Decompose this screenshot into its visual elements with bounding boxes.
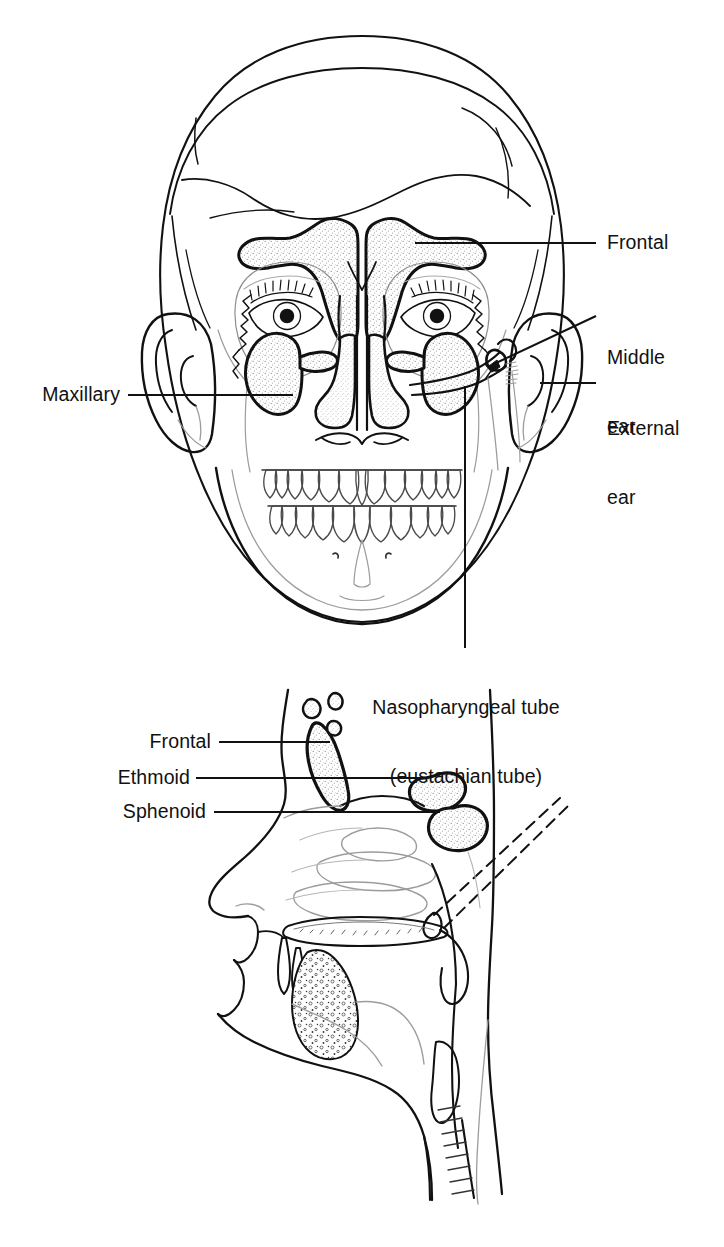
nasal-notch-right [374, 438, 402, 444]
hair-strand-3 [462, 108, 512, 166]
nasal-notch-left [322, 438, 350, 444]
label-ethmoid: Ethmoid [0, 766, 190, 789]
nose-underside [234, 916, 258, 962]
suture-right [473, 295, 485, 350]
cranium-outline [160, 36, 564, 622]
label-nasopharyngeal-tube: Nasopharyngeal tube (eustachian tube) [325, 650, 607, 834]
label-external-ear-line2: ear [607, 486, 679, 509]
mandibular-teeth [268, 506, 456, 543]
suture-left-lower [233, 350, 239, 378]
soft-palate [440, 930, 468, 1004]
nostril-crease [236, 904, 264, 910]
label-frontal-top: Frontal [607, 231, 668, 254]
nasal-cavity-left [315, 335, 355, 428]
neck-posterior-soft [477, 1020, 489, 1204]
chin-crease [340, 596, 384, 601]
suture-left [239, 295, 251, 350]
eye-right [401, 276, 480, 337]
tongue [292, 950, 358, 1059]
external-ear-left [142, 314, 215, 453]
ramus-right [488, 378, 498, 470]
label-external-ear-line1: External [607, 417, 679, 440]
label-maxillary: Maxillary [0, 383, 120, 406]
maxillary-sinus-left [246, 333, 303, 414]
nasal-airway-2 [292, 860, 366, 872]
maxillary-sinus-left-horn [300, 352, 337, 371]
label-nasopharyngeal-line1: Nasopharyngeal tube [325, 696, 607, 719]
label-middle-ear-line1: Middle [607, 346, 665, 369]
anatomy-figure [0, 0, 724, 1247]
label-sphenoid: Sphenoid [0, 800, 206, 823]
eye-left [244, 276, 323, 337]
maxillary-teeth [262, 470, 462, 505]
hairline [170, 68, 554, 214]
hard-palate-inner [294, 922, 434, 930]
maxillary-sinus-right [422, 333, 479, 414]
oropharynx-anterior [356, 1002, 424, 1064]
maxillary-sinus-right-horn [387, 352, 424, 371]
figure-page: Frontal Middle ear External ear Maxillar… [0, 0, 724, 1247]
inferior-turbinate [294, 882, 427, 921]
trachea-posterior [462, 1120, 474, 1198]
mental-symphysis [354, 540, 370, 587]
label-external-ear: External ear [607, 371, 679, 555]
columella [258, 931, 284, 938]
epiglottis [431, 1042, 459, 1123]
upper-incisor [278, 938, 290, 994]
ethmoid-cell-1 [303, 699, 321, 718]
anterior-view-panel [142, 36, 582, 624]
middle-turbinate [317, 852, 436, 891]
label-nasopharyngeal-line2: (eustachian tube) [325, 765, 607, 788]
label-frontal-lower: Frontal [0, 730, 211, 753]
nasal-cavity-right [369, 335, 409, 428]
face-profile [209, 690, 288, 917]
hard-palate-texture [300, 928, 422, 935]
mental-foramen-left [333, 553, 338, 558]
upper-lip-maxilla [218, 960, 244, 1016]
mental-foramen-right [386, 553, 391, 558]
tracheal-rings [438, 1106, 474, 1194]
